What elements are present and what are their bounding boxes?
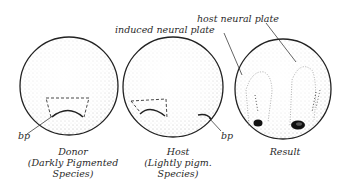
induced-neural-plate-label: induced neural plate — [115, 24, 215, 35]
host-bp-label: bp — [221, 130, 233, 141]
result-caption: Result — [250, 146, 320, 157]
induced-blastopore-spot — [254, 120, 263, 127]
donor-caption: Donor (Darkly Pigmented Species) — [18, 146, 128, 179]
donor-bp-label: bp — [18, 130, 30, 141]
result-caption-title: Result — [250, 146, 320, 157]
host-caption: Host (Lightly pigm. Species) — [128, 146, 228, 179]
host-embryo — [123, 37, 223, 137]
donor-caption-species: Species) — [18, 168, 128, 179]
host-caption-subtitle: (Lightly pigm. — [128, 157, 228, 168]
donor-caption-title: Donor — [18, 146, 128, 157]
host-neural-plate-label: host neural plate — [197, 13, 279, 24]
host-caption-title: Host — [128, 146, 228, 157]
host-caption-species: Species) — [128, 168, 228, 179]
donor-embryo — [20, 37, 118, 135]
bp-pointer-line — [209, 118, 221, 131]
donor-caption-subtitle: (Darkly Pigmented — [18, 157, 128, 168]
result-embryo — [224, 23, 331, 139]
induced-plate-pointer-line — [224, 33, 242, 75]
